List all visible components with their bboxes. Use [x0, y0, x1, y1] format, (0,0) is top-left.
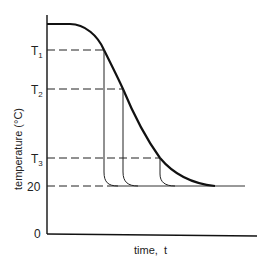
t1-label: T1 [31, 44, 43, 60]
x-axis-title: time, t [134, 244, 167, 256]
t2-label: T2 [31, 83, 43, 99]
main-cooling-curve [47, 24, 215, 186]
zero-label: 0 [34, 227, 41, 241]
t3-label: T3 [31, 152, 43, 168]
y-axis-title: temperature (°C) [12, 108, 24, 190]
x-axis [47, 234, 257, 236]
cooling-curve-diagram: T1 T2 T3 20 0 temperature (°C) time, t [0, 0, 263, 272]
twenty-label: 20 [27, 180, 41, 194]
quench-curve-t1 [104, 50, 118, 186]
